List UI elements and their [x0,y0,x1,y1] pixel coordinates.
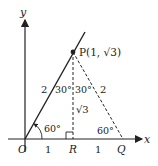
length-op: 2 [41,84,47,95]
length-or: 1 [45,144,51,155]
length-pq: 2 [100,84,106,95]
point-p-label: P(1, √3) [79,46,121,58]
length-pr: √3 [76,104,89,115]
angle-o-label: 60° [44,123,61,134]
angle-p-right-label: 30° [75,84,92,95]
angle-q-label: 60° [97,125,114,136]
point-o-label: O [18,143,27,155]
triangle-diagram: y x P(1, √3) O R Q 1 1 2 2 √3 60° 60° 30… [0,0,158,166]
point-q-label: Q [117,143,126,156]
length-rq: 1 [95,144,101,155]
x-axis-label: x [144,133,151,146]
angle-arc-o [34,124,42,139]
angle-p-left-label: 30° [55,84,72,95]
point-p [71,50,76,55]
right-angle-mark [66,132,73,139]
y-axis-label: y [19,6,27,19]
point-r-label: R [68,143,77,155]
